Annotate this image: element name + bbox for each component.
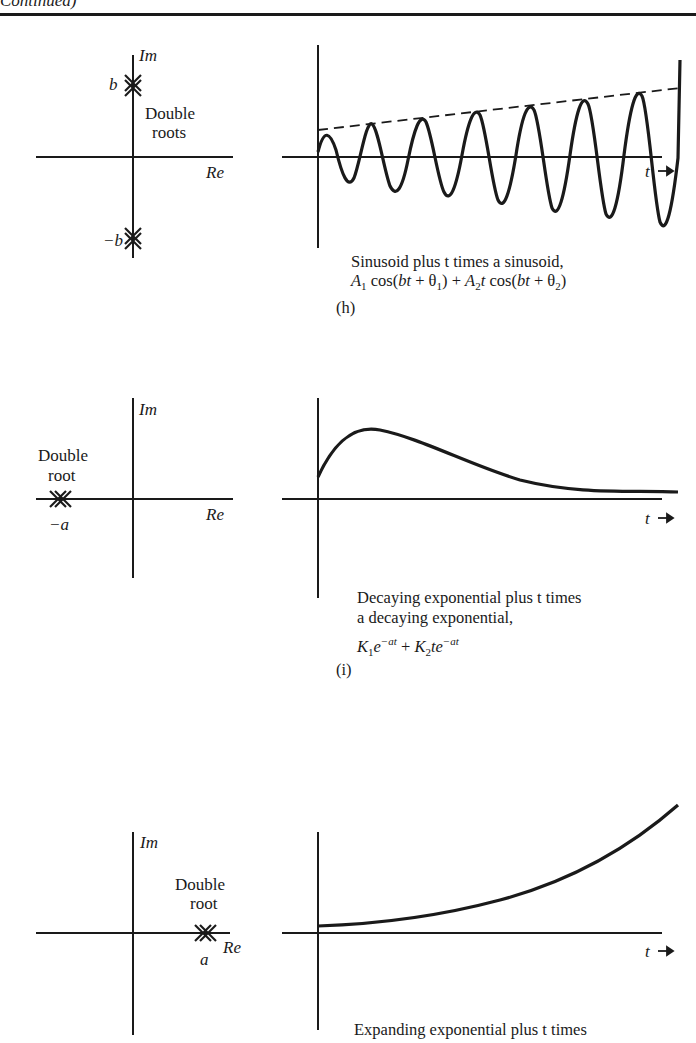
caption-h-formula: A1 cos(bt + θ1) + A2t cos(bt + θ2) (351, 271, 566, 296)
growing-sinusoid-curve (318, 60, 680, 226)
s-plane-axes-j (36, 832, 230, 1035)
s-plane-axes-i (36, 398, 233, 578)
decaying-response-curve (318, 429, 678, 492)
root-note-line1-i: Double (38, 446, 88, 465)
panel-label-i: (i) (336, 660, 352, 679)
root-label-b: b (109, 75, 118, 94)
root-label-neg-a: −a (49, 515, 69, 534)
response-axes-i (282, 398, 662, 598)
axis-label-im-h: Im (139, 46, 157, 65)
root-note-line2-i: root (48, 466, 75, 485)
axis-label-re-h: Re (206, 163, 224, 182)
root-label-a: a (200, 950, 209, 969)
root-note-line1-j: Double (175, 875, 225, 894)
response-axes-j (282, 832, 662, 1030)
axis-label-im-j: Im (140, 833, 158, 852)
caption-i-line2: a decaying exponential, (357, 608, 513, 627)
t-arrow-h (658, 167, 673, 175)
panel-label-h: (h) (336, 298, 355, 317)
root-note-line2-j: root (190, 894, 217, 913)
caption-i-line1: Decaying exponential plus t times (357, 588, 582, 607)
axis-label-re-i: Re (206, 505, 224, 524)
caption-i-formula: K1e−at + K2te−at (357, 632, 459, 662)
root-label-neg-b: −b (103, 231, 123, 250)
axis-label-re-j: Re (223, 938, 241, 957)
root-note-line2-h: roots (152, 123, 186, 142)
t-arrow-j (658, 947, 673, 955)
time-axis-label-j: t (645, 942, 650, 961)
figure-graphics (0, 0, 696, 1043)
time-axis-label-h: t (645, 162, 650, 181)
time-axis-label-i: t (645, 509, 650, 528)
t-arrow-i (658, 514, 673, 522)
axis-label-im-i: Im (139, 400, 157, 419)
caption-j-line1: Expanding exponential plus t times (354, 1020, 587, 1039)
root-note-line1-h: Double (145, 104, 195, 123)
caption-h-line1: Sinusoid plus t times a sinusoid, (351, 252, 564, 271)
expanding-response-curve (318, 805, 678, 926)
response-axes-h (282, 45, 662, 248)
